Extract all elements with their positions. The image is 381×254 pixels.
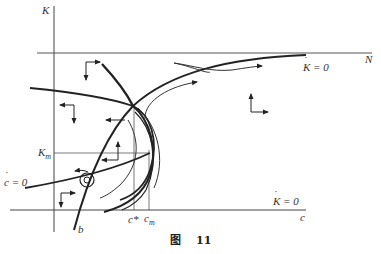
k-dot-zero-bottom-label: K = 0 bbox=[273, 196, 299, 207]
figure-caption: 图 11 bbox=[0, 231, 381, 247]
direction-arrows-right bbox=[251, 94, 268, 112]
k-dot-zero-top-label: K = 0 bbox=[303, 62, 329, 73]
y-axis-label: K bbox=[42, 5, 49, 16]
trajectory-7 bbox=[232, 66, 262, 70]
c-m-label: cm bbox=[144, 213, 155, 227]
c-dot-zero-label: c = 0 bbox=[4, 177, 27, 188]
direction-arrows-bottom-left bbox=[61, 193, 75, 207]
focus-arrow bbox=[75, 170, 88, 172]
x-axis-label: c bbox=[300, 212, 305, 223]
direction-arrows-top-left bbox=[86, 62, 100, 80]
n-line-label: N bbox=[365, 54, 372, 65]
k-dot-zero-top-text: K = 0 bbox=[303, 62, 329, 73]
c-star-label: c* bbox=[128, 214, 138, 225]
trajectory-5 bbox=[145, 82, 197, 118]
direction-arrows-left bbox=[60, 105, 74, 123]
c-dot-zero-text: c = 0 bbox=[4, 177, 27, 188]
k-dot-zero-curve bbox=[74, 55, 306, 230]
c-m-sub: m bbox=[149, 218, 155, 227]
caption-prefix: 图 bbox=[170, 231, 181, 247]
k-m-label: Km bbox=[38, 147, 51, 161]
caption-number: 11 bbox=[196, 234, 211, 247]
trajectory-8 bbox=[174, 63, 210, 72]
direction-arrows-center bbox=[102, 142, 118, 160]
phase-diagram-svg bbox=[0, 0, 381, 254]
k-dot-zero-bottom-text: K = 0 bbox=[273, 196, 299, 207]
k-m-sub: m bbox=[45, 152, 51, 161]
phase-diagram: K N K = 0 K = 0 c c = 0 Km c* cm b 图 11 bbox=[0, 0, 381, 254]
